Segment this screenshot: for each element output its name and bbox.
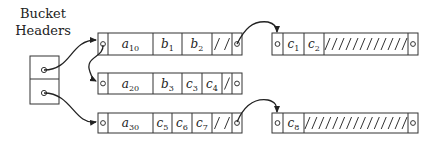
block-outline <box>98 113 242 133</box>
block-a10: a10b1b2 <box>98 33 242 55</box>
arrow-block-a30-to-block-c8 <box>237 100 277 122</box>
linked-bucket-diagram: Bucket Headers a10b1b2a20b3c3c4a30c5c6c7… <box>0 0 443 141</box>
title-line-2: Headers <box>15 23 71 38</box>
storage-blocks: a10b1b2a20b3c3c4a30c5c6c7c1c2c8 <box>98 33 418 133</box>
pointer-slot-icon <box>275 121 280 126</box>
bucket-header-box <box>30 56 59 104</box>
bucket-headers <box>30 56 59 104</box>
pointer-slot-icon <box>411 42 416 47</box>
title-line-1: Bucket <box>20 6 67 21</box>
block-a30: a30c5c6c7 <box>98 113 242 133</box>
block-a20: a20b3c3c4 <box>98 73 242 94</box>
diagram-title: Bucket Headers <box>15 6 71 38</box>
pointer-slot-icon <box>411 121 416 126</box>
pointer-slot-icon <box>275 42 280 47</box>
pointer-slot-icon <box>101 121 106 126</box>
block-c1: c1c2 <box>272 33 418 55</box>
block-c8: c8 <box>272 113 418 133</box>
arrow-block-a10-to-block-c1 <box>237 22 277 44</box>
pointer-slot-icon <box>235 81 240 86</box>
pointer-slot-icon <box>101 81 106 86</box>
